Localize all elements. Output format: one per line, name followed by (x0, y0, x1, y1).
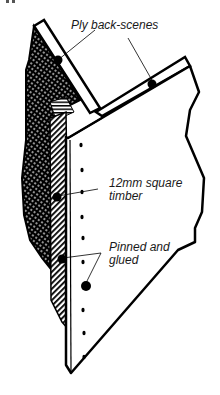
label-glued: glued (109, 254, 138, 267)
label-ply-back-scenes: Ply back-scenes (71, 19, 158, 32)
label-timber: timber (109, 190, 142, 203)
front-flat-panel (66, 66, 204, 373)
